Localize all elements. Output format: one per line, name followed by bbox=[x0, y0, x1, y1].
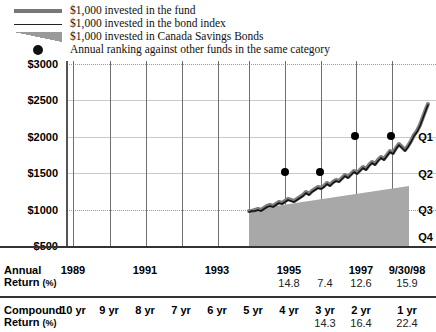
compound-return-caption-unit: (%) bbox=[43, 318, 57, 328]
chart-legend: $1,000 invested in the fund $1,000 inves… bbox=[0, 0, 436, 56]
annual-year-1989: 1989 bbox=[53, 264, 93, 276]
compound-period-10yr: 10 yr bbox=[53, 304, 93, 316]
legend-label-csb: $1,000 invested in Canada Savings Bonds bbox=[70, 30, 264, 42]
compound-period-5yr: 5 yr bbox=[233, 304, 273, 316]
legend-label-ranking: Annual ranking against other funds in th… bbox=[70, 43, 330, 55]
legend-label-fund: $1,000 invested in the fund bbox=[70, 4, 196, 16]
compound-period-7yr: 7 yr bbox=[161, 304, 201, 316]
annual-value-1998: 15.9 bbox=[381, 277, 433, 289]
fund-line-series bbox=[249, 104, 428, 211]
annual-year-1991: 1991 bbox=[125, 264, 165, 276]
compound-period-9yr: 9 yr bbox=[89, 304, 129, 316]
annual-return-caption: Annual Return (%) bbox=[4, 264, 57, 289]
table-divider bbox=[0, 296, 436, 298]
black-dot-swatch-icon bbox=[14, 44, 62, 56]
quartile-label-q2: Q2 bbox=[418, 168, 433, 180]
compound-period-8yr: 8 yr bbox=[125, 304, 165, 316]
annual-year-1993: 1993 bbox=[197, 264, 237, 276]
annual-return-caption-line2: Return bbox=[4, 276, 39, 288]
fund-performance-chart: $1,000 invested in the fund $1,000 inves… bbox=[0, 0, 436, 332]
ranking-dot-1995 bbox=[281, 168, 289, 176]
thin-black-line-swatch-icon bbox=[14, 18, 62, 30]
compound-return-table: Compound Return (%) 10 yr 9 yr 8 yr 7 yr… bbox=[0, 302, 436, 332]
annual-value-1995: 14.8 bbox=[269, 277, 309, 289]
compound-return-caption-line2: Return bbox=[4, 316, 39, 328]
gray-wedge-area-swatch-icon bbox=[14, 31, 62, 43]
ranking-dot-1997 bbox=[351, 132, 359, 140]
annual-return-caption-unit: (%) bbox=[43, 278, 57, 288]
annual-return-caption-line1: Annual bbox=[4, 264, 41, 276]
quartile-label-q1: Q1 bbox=[418, 131, 433, 143]
annual-value-1997: 12.6 bbox=[341, 277, 381, 289]
compound-value-1yr: 22.4 bbox=[381, 317, 433, 329]
annual-value-1996: 7.4 bbox=[305, 277, 345, 289]
compound-value-3yr: 14.3 bbox=[305, 317, 345, 329]
compound-period-6yr: 6 yr bbox=[197, 304, 237, 316]
annual-year-1997: 1997 bbox=[341, 264, 381, 276]
compound-period-1yr: 1 yr bbox=[381, 304, 433, 316]
ranking-dot-1996 bbox=[316, 168, 324, 176]
plot-area: $3000 $2500 $2000 $1500 $1000 $500 bbox=[0, 56, 436, 256]
quartile-label-q4: Q4 bbox=[418, 231, 433, 243]
fund-and-bond-lines bbox=[0, 56, 436, 256]
annual-year-1995: 1995 bbox=[269, 264, 309, 276]
thick-gray-line-swatch-icon bbox=[14, 5, 62, 17]
compound-period-3yr: 3 yr bbox=[305, 304, 345, 316]
legend-label-bond-index: $1,000 invested in the bond index bbox=[70, 17, 226, 29]
compound-period-2yr: 2 yr bbox=[341, 304, 381, 316]
bond-index-line-series bbox=[249, 105, 428, 212]
compound-value-2yr: 16.4 bbox=[341, 317, 381, 329]
quartile-label-q3: Q3 bbox=[418, 204, 433, 216]
annual-return-table: Annual Return (%) 1989 1991 1993 1995 19… bbox=[0, 258, 436, 298]
compound-period-4yr: 4 yr bbox=[269, 304, 309, 316]
ranking-dot-1998 bbox=[387, 132, 395, 140]
x-axis-line bbox=[0, 246, 436, 248]
annual-year-1998: 9/30/98 bbox=[381, 264, 433, 276]
